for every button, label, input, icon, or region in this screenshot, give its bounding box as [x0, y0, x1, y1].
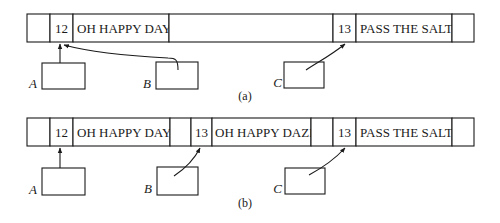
empty-cell [452, 118, 474, 146]
count-value: 13 [195, 125, 208, 140]
panel-caption: (a) [238, 89, 251, 103]
pointer-box [157, 167, 198, 195]
string-storage-diagram: 12 OH HAPPY DAY 13 PASS THE SALT A B C [0, 0, 500, 223]
pointer-c: C [273, 44, 345, 90]
memory-strip-a: 12 OH HAPPY DAY 13 PASS THE SALT [27, 14, 474, 42]
string-value: OH HAPPY DAZE [215, 125, 317, 140]
memory-strip-b: 12 OH HAPPY DAY 13 OH HAPPY DAZE 13 PASS… [27, 118, 474, 146]
string-value: OH HAPPY DAY [77, 125, 172, 140]
pointer-label: C [273, 75, 282, 90]
pointer-label: A [28, 182, 37, 197]
empty-cell [27, 118, 50, 146]
string-value: OH HAPPY DAY [77, 21, 172, 36]
string-value: PASS THE SALT [360, 21, 453, 36]
count-value: 12 [55, 125, 68, 140]
arrow-icon [306, 44, 345, 70]
empty-cell [452, 14, 474, 42]
pointer-box [42, 63, 85, 89]
count-value: 13 [338, 21, 351, 36]
pointer-box [284, 62, 324, 88]
empty-cell [311, 118, 333, 146]
pointer-label: B [143, 76, 151, 91]
count-value: 13 [338, 125, 351, 140]
empty-cell [170, 118, 191, 146]
pointer-label: A [28, 76, 37, 91]
empty-cell [169, 14, 333, 42]
count-value: 12 [55, 21, 68, 36]
empty-cell [27, 14, 50, 42]
panel-a: 12 OH HAPPY DAY 13 PASS THE SALT A B C [27, 14, 474, 103]
pointer-b: B [144, 148, 200, 196]
pointer-a: A [28, 44, 85, 91]
pointer-box [42, 168, 85, 195]
panel-caption: (b) [238, 196, 252, 210]
pointer-a: A [28, 148, 85, 197]
pointer-box [285, 168, 325, 194]
pointer-c: C [273, 148, 345, 196]
panel-b: 12 OH HAPPY DAY 13 OH HAPPY DAZE 13 PASS… [27, 118, 474, 210]
pointer-label: B [144, 181, 152, 196]
string-value: PASS THE SALT [360, 125, 453, 140]
pointer-label: C [273, 181, 282, 196]
pointer-box [156, 62, 198, 89]
